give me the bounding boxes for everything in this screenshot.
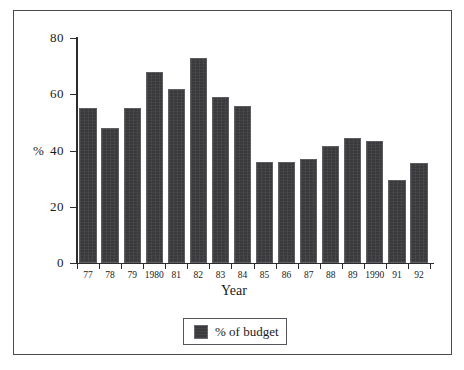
x-axis-tick: [298, 264, 299, 269]
x-axis-tick: [165, 264, 166, 269]
bar: [234, 106, 251, 264]
x-axis-tick: [342, 264, 343, 269]
bar: [168, 89, 185, 263]
y-axis-tick: [70, 38, 77, 39]
x-axis-tick-label: 91: [386, 270, 408, 280]
bar: [101, 128, 118, 263]
y-axis-tick: [70, 94, 77, 95]
plot-area: [77, 38, 430, 263]
bar: [410, 163, 427, 263]
x-axis-tick: [143, 264, 144, 269]
x-axis-tick-label: 89: [342, 270, 364, 280]
bar: [124, 108, 141, 263]
chart-legend: % of budget: [183, 318, 287, 345]
x-axis-tick-label: 79: [121, 270, 143, 280]
y-axis-tick-label: 60: [24, 87, 64, 100]
x-axis-tick: [430, 264, 431, 269]
x-axis-tick-label: 83: [209, 270, 231, 280]
y-axis-tick: [70, 151, 77, 152]
x-axis-tick-label: 86: [276, 270, 298, 280]
y-axis-tick: [70, 263, 77, 264]
y-axis-tick-label: 20: [24, 200, 64, 213]
y-axis-tick: [70, 207, 77, 208]
bar: [322, 146, 339, 263]
bar: [256, 162, 273, 263]
x-axis-tick-label: 82: [187, 270, 209, 280]
bar: [300, 159, 317, 263]
x-axis-title-text: Year: [221, 283, 247, 298]
y-axis-tick-label: 40: [24, 144, 64, 157]
y-axis-tick-label: 0: [24, 256, 64, 269]
x-axis-tick: [77, 264, 78, 269]
x-axis-tick: [386, 264, 387, 269]
legend-swatch-pct-of-budget: [194, 325, 208, 339]
bar: [344, 138, 361, 263]
x-axis-tick-label: 87: [298, 270, 320, 280]
x-axis-tick: [364, 264, 365, 269]
bar: [146, 72, 163, 263]
bar: [212, 97, 229, 263]
x-axis-tick: [320, 264, 321, 269]
bar: [366, 141, 383, 263]
x-axis-tick-label: 1980: [143, 270, 165, 280]
x-axis-tick-label: 1990: [364, 270, 386, 280]
bar: [190, 58, 207, 263]
bar: [79, 108, 96, 263]
legend-label-pct-of-budget: % of budget: [215, 325, 279, 339]
x-axis-tick-label: 84: [231, 270, 253, 280]
x-axis-tick-label: 88: [320, 270, 342, 280]
x-axis-tick-label: 92: [408, 270, 430, 280]
x-axis-tick-label: 81: [165, 270, 187, 280]
x-axis-tick: [121, 264, 122, 269]
x-axis-tick-label: 77: [77, 270, 99, 280]
x-axis-tick: [209, 264, 210, 269]
bar-chart-figure: % 020406080 7778791980818283848586878889…: [0, 0, 464, 370]
bar: [388, 180, 405, 263]
x-axis-tick-label: 78: [99, 270, 121, 280]
x-axis-title: Year: [0, 283, 464, 298]
bar: [278, 162, 295, 263]
y-axis-tick-label: 80: [24, 31, 64, 44]
x-axis-tick: [99, 264, 100, 269]
x-axis-tick: [231, 264, 232, 269]
x-axis-tick-label: 85: [254, 270, 276, 280]
x-axis-tick: [187, 264, 188, 269]
x-axis-tick: [408, 264, 409, 269]
x-axis-tick: [276, 264, 277, 269]
x-axis-tick: [254, 264, 255, 269]
